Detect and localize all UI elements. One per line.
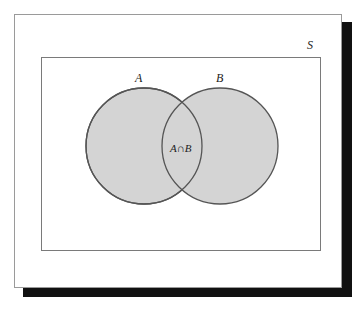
set-b-label: B (216, 71, 224, 85)
intersection-label: A∩B (169, 142, 192, 154)
venn-diagram: S A B A∩B (0, 0, 362, 311)
universe-label: S (307, 38, 313, 52)
set-a-label: A (134, 71, 143, 85)
